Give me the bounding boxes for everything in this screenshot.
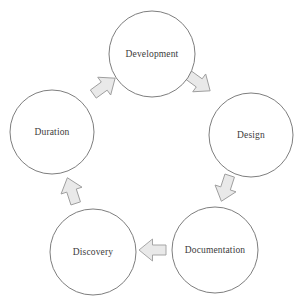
arrow-design-documentation [211,172,240,204]
arrow-shape [211,172,240,204]
stage-node-design[interactable]: Design [209,93,293,177]
stage-label-development: Development [126,49,179,59]
stage-node-duration[interactable]: Duration [10,90,94,174]
arrow-discovery-duration [57,174,86,206]
arrow-documentation-discovery [139,239,166,261]
stage-node-discovery[interactable]: Discovery [50,209,136,295]
cycle-diagram: Development Design Documentation Discove… [0,0,304,306]
stage-label-documentation: Documentation [185,245,246,255]
stage-label-discovery: Discovery [73,247,113,257]
stage-label-duration: Duration [35,127,70,137]
stage-node-development[interactable]: Development [109,11,195,97]
stage-label-design: Design [237,130,265,140]
cycle-diagram-canvas: Development Design Documentation Discove… [0,0,304,306]
arrow-shape [139,239,166,261]
arrow-shape [57,174,86,206]
stage-node-documentation[interactable]: Documentation [172,207,258,293]
